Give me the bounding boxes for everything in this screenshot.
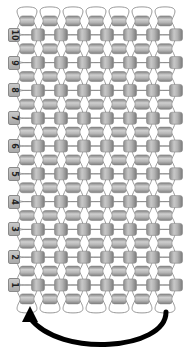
bead: [89, 238, 103, 248]
bead: [66, 72, 80, 82]
bead: [20, 183, 34, 193]
bead: [66, 44, 80, 54]
bead: [112, 238, 126, 248]
bead: [89, 99, 103, 109]
bead: [66, 183, 80, 193]
bead: [78, 223, 91, 235]
bead: [124, 251, 137, 263]
bead: [55, 57, 68, 69]
bead: [147, 140, 160, 152]
bead: [170, 279, 183, 291]
bead: [112, 183, 126, 193]
bead: [147, 84, 160, 96]
bead: [101, 57, 114, 69]
bead: [158, 127, 172, 137]
bead: [89, 72, 103, 82]
bead: [170, 168, 183, 180]
bead: [66, 294, 80, 304]
bead: [20, 127, 34, 137]
bead: [43, 211, 57, 221]
bead: [135, 44, 149, 54]
bead: [20, 72, 34, 82]
bead: [135, 238, 149, 248]
bead: [32, 57, 45, 69]
bead: [20, 155, 34, 165]
bead: [32, 251, 45, 263]
bead: [66, 99, 80, 109]
bead: [20, 99, 34, 109]
row-label-text: 4: [10, 199, 18, 205]
row-label-text: 9: [10, 60, 18, 66]
bead: [147, 112, 160, 124]
bead: [32, 279, 45, 291]
bead: [147, 29, 160, 41]
bead: [170, 29, 183, 41]
bead: [158, 266, 172, 276]
bead: [158, 183, 172, 193]
bead: [135, 266, 149, 276]
bead: [66, 127, 80, 137]
bead: [89, 294, 103, 304]
bead: [32, 84, 45, 96]
bead: [147, 251, 160, 263]
bead: [20, 238, 34, 248]
bead: [158, 155, 172, 165]
bead: [147, 57, 160, 69]
bead: [32, 140, 45, 152]
bead: [20, 294, 34, 304]
row-label-text: 10: [10, 29, 18, 40]
bead: [89, 266, 103, 276]
bead: [101, 223, 114, 235]
bead: [66, 211, 80, 221]
bead: [101, 168, 114, 180]
bead: [158, 99, 172, 109]
bead: [124, 29, 137, 41]
bead: [124, 140, 137, 152]
bead: [89, 155, 103, 165]
bead: [43, 155, 57, 165]
bead: [170, 223, 183, 235]
bead: [124, 57, 137, 69]
bead: [78, 57, 91, 69]
bead: [43, 16, 57, 26]
bead: [101, 112, 114, 124]
row-label-8: 8: [8, 83, 20, 97]
bead: [78, 112, 91, 124]
bead: [112, 127, 126, 137]
bead: [170, 196, 183, 208]
bead: [43, 99, 57, 109]
bead: [124, 196, 137, 208]
bead: [147, 168, 160, 180]
bead: [55, 196, 68, 208]
bead: [124, 223, 137, 235]
row-label-text: 6: [10, 143, 18, 149]
bead: [170, 251, 183, 263]
row-label-5: 5: [8, 167, 20, 181]
bead: [158, 16, 172, 26]
row-label-6: 6: [8, 139, 20, 153]
bead: [124, 168, 137, 180]
bead: [124, 84, 137, 96]
bead: [32, 29, 45, 41]
bead: [135, 16, 149, 26]
bead: [55, 223, 68, 235]
bead: [158, 44, 172, 54]
bead: [55, 168, 68, 180]
bead: [112, 72, 126, 82]
bead: [147, 223, 160, 235]
bead: [124, 279, 137, 291]
bead: [20, 211, 34, 221]
bead: [112, 294, 126, 304]
bead: [20, 266, 34, 276]
bead: [170, 57, 183, 69]
bead: [135, 72, 149, 82]
bead: [43, 127, 57, 137]
bead: [112, 211, 126, 221]
bead: [66, 16, 80, 26]
bead: [135, 127, 149, 137]
bead: [43, 238, 57, 248]
bead: [158, 211, 172, 221]
bead: [112, 99, 126, 109]
bead: [43, 266, 57, 276]
row-label-text: 7: [10, 115, 18, 121]
